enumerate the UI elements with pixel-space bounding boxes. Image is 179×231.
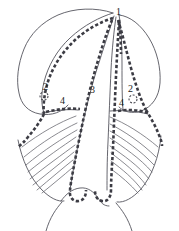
muscle-fiber: [110, 146, 149, 179]
muscle-fiber: [26, 130, 77, 165]
label-4-left: 4: [60, 96, 65, 106]
left-muscle-fiber-group: [22, 116, 77, 193]
small-circle-right: [129, 95, 137, 103]
right-lower-lateral-outline: [117, 136, 161, 202]
left-incision-lateral: [18, 114, 44, 147]
muscle-fiber: [33, 152, 74, 185]
bottom-left-contour: [46, 202, 62, 231]
muscle-fiber: [111, 153, 146, 185]
left-incision-upper: [44, 18, 113, 114]
label-1: 1: [116, 7, 121, 17]
muscle-fiber: [42, 168, 72, 193]
muscle-fiber: [110, 138, 152, 172]
bottom-right-contour: [116, 203, 132, 231]
anatomical-figure: 1 2 2 3 4 4: [0, 0, 179, 231]
label-2-left: 2: [43, 82, 48, 92]
anatomy-illustration: [0, 0, 179, 231]
muscle-fiber: [110, 117, 158, 147]
right-incision-lateral: [146, 110, 162, 146]
label-4-right: 4: [119, 98, 124, 108]
left-central-dashed: [70, 20, 112, 201]
muscle-fiber: [28, 137, 76, 172]
label-2-right: 2: [128, 84, 133, 94]
muscle-fiber: [110, 131, 154, 165]
right-outer-lobe-outline: [119, 15, 160, 112]
incision-dashed-group: [18, 18, 162, 201]
muscle-fiber: [30, 145, 75, 179]
right-muscle-fiber-group: [110, 117, 158, 193]
left-inner-lobe-outline: [42, 13, 113, 113]
muscle-fiber: [37, 160, 73, 190]
label-3: 3: [90, 85, 95, 95]
